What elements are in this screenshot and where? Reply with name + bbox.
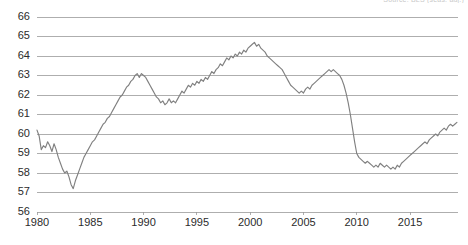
x-axis-tick-label: 2010 — [345, 216, 369, 228]
y-axis-tick-label: 60 — [18, 127, 30, 139]
y-axis-tick-label: 62 — [18, 88, 30, 100]
x-axis-tick-label: 1985 — [78, 216, 102, 228]
x-axis-tick-label: 2000 — [238, 216, 262, 228]
y-axis-tick-label: 61 — [18, 107, 30, 119]
series-line-labor-force-participation-rate — [37, 42, 457, 188]
gridlines-group — [37, 17, 458, 212]
x-axis-tick-label: 1995 — [185, 216, 209, 228]
y-axis-tick-label: 64 — [18, 49, 30, 61]
y-axis-tick-label: 59 — [18, 146, 30, 158]
x-axis-tick-label: 2015 — [398, 216, 422, 228]
x-axis-tick-label: 1990 — [131, 216, 155, 228]
chart-container: Source: BLS (seas. adj.) 565758596061626… — [0, 0, 468, 245]
data-series-group — [37, 42, 457, 188]
y-axis-tick-labels: 5657585960616263646566 — [18, 10, 30, 217]
x-axis-tick-label: 2005 — [291, 216, 315, 228]
x-axis-tick-label: 1980 — [25, 216, 49, 228]
y-axis-tick-label: 65 — [18, 29, 30, 41]
y-axis-tick-label: 63 — [18, 68, 30, 80]
line-chart-plot: 5657585960616263646566 19801985199019952… — [0, 0, 468, 245]
y-axis-tick-label: 66 — [18, 10, 30, 22]
x-axis-tick-labels: 19801985199019952000200520102015 — [25, 216, 423, 228]
y-axis-tick-label: 58 — [18, 166, 30, 178]
y-axis-tick-label: 57 — [18, 185, 30, 197]
x-axis-tickmarks — [37, 212, 410, 215]
